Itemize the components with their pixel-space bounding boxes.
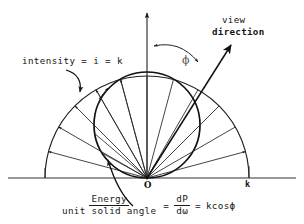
formula-result: kcosϕ [206, 200, 236, 211]
energy-per-solid-angle-fraction: Energy unit solid angle [60, 194, 158, 217]
radial-ray [75, 106, 147, 178]
intensity-leader-arrow [66, 70, 80, 92]
intensity-label: intensity = i = k [22, 56, 123, 65]
radial-ray-group [49, 76, 246, 178]
view-direction-label-line1: view [222, 15, 245, 24]
figure-root: intensity = i = k view direction ϕ O k E… [0, 0, 304, 224]
dp-numerator: dP [174, 194, 190, 206]
radial-ray [147, 106, 219, 178]
dp-domega-fraction: dP dω [174, 194, 190, 217]
formula-equals-1: = [158, 200, 174, 211]
formula-denominator: unit solid angle [60, 206, 158, 217]
cosine-chord [121, 80, 147, 178]
origin-point [146, 177, 149, 180]
arc-indicator-arrow [99, 88, 108, 99]
domega-denominator: dω [174, 206, 190, 217]
formula-equals-2: = [190, 200, 206, 211]
origin-label: O [144, 181, 151, 190]
phi-angle-arc [154, 45, 198, 62]
phi-angle-label: ϕ [182, 55, 190, 66]
radial-ray [147, 127, 235, 178]
formula-expression: Energy unit solid angle = dP dω = kcosϕ [60, 194, 235, 217]
view-direction-label-line2: direction [212, 27, 264, 36]
k-axis-label: k [245, 180, 250, 189]
radial-ray [49, 152, 147, 178]
radial-ray [147, 80, 173, 178]
cosine-chord [96, 90, 147, 178]
formula-numerator: Energy [89, 194, 128, 206]
